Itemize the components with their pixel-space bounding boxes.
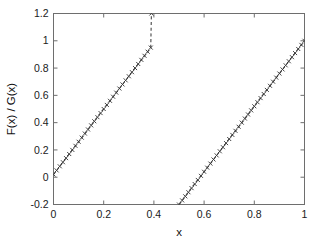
y-tick-label: 1.2 [34, 7, 49, 19]
y-tick-label: 0.6 [34, 89, 49, 101]
figure-canvas: 00.20.40.60.81 -0.200.20.40.60.811.2 x F… [0, 0, 322, 243]
x-axis-title: x [176, 226, 182, 238]
y-axis-title: F(x) / G(x) [5, 83, 17, 136]
y-tick-label: 1 [43, 34, 49, 46]
x-tick-label: 0.8 [247, 208, 262, 220]
plot-area: 00.20.40.60.81 -0.200.20.40.60.811.2 x F… [0, 0, 322, 243]
x-tick-label: 0.6 [197, 208, 212, 220]
y-tick-label: 0.8 [34, 62, 49, 74]
x-tick-label: 1 [302, 208, 308, 220]
y-tick-label: -0.2 [30, 198, 48, 210]
x-tick-label: 0 [51, 208, 57, 220]
y-tick-label: 0.4 [34, 116, 49, 128]
x-tick-label: 0.2 [96, 208, 111, 220]
y-tick-label: 0.2 [34, 144, 49, 156]
x-tick-label: 0.4 [147, 208, 162, 220]
y-tick-label: 0 [43, 171, 49, 183]
